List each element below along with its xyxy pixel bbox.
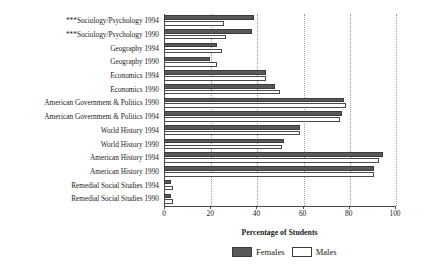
x-tick-label: 20 [206,209,213,218]
bar-row [164,55,395,69]
bar-row [164,192,395,206]
bar-row [164,14,395,28]
x-axis-title: Percentage of Students [164,228,395,237]
bar-rows [164,14,395,206]
bar-males [164,131,300,136]
category-label: World History 1990 [0,137,162,151]
category-label: Geography 1990 [0,55,162,69]
bar-row [164,28,395,42]
category-label: Economics 1990 [0,83,162,97]
bar-row [164,165,395,179]
bar-females [164,15,254,20]
bar-males [164,186,173,191]
legend-swatch-females-icon [232,247,252,257]
bar-males [164,49,222,54]
bar-chart: ***Sociology/Psychology 1994***Sociology… [0,0,426,266]
chart-title-clipped [0,0,426,2]
bar-females [164,166,374,171]
bar-females [164,152,383,157]
bar-row [164,69,395,83]
bar-females [164,194,171,199]
legend-item-females: Females [232,247,285,257]
bar-row [164,110,395,124]
bar-females [164,180,171,185]
bar-females [164,57,210,62]
x-tick-label: 100 [389,209,400,218]
bar-males [164,145,282,150]
bar-males [164,117,340,122]
bar-females [164,98,344,103]
bar-males [164,103,346,108]
bar-females [164,70,266,75]
category-axis-labels: ***Sociology/Psychology 1994***Sociology… [0,14,162,206]
bar-row [164,96,395,110]
bar-females [164,84,275,89]
category-label: Economics 1994 [0,69,162,83]
bar-females [164,139,284,144]
bar-row [164,178,395,192]
bar-row [164,41,395,55]
bar-row [164,151,395,165]
bar-males [164,76,266,81]
category-label: American History 1990 [0,165,162,179]
bar-males [164,35,226,40]
bar-row [164,124,395,138]
gridline-100 [396,14,397,206]
bar-females [164,125,300,130]
category-label: ***Sociology/Psychology 1990 [0,28,162,42]
x-tick-label: 60 [299,209,306,218]
x-tick-label: 0 [162,209,166,218]
category-label: World History 1994 [0,124,162,138]
category-label: Remedial Social Studies 1990 [0,192,162,206]
legend-swatch-males-icon [292,247,312,257]
x-axis-tick-labels: 020406080100 [0,209,426,221]
category-label: American History 1994 [0,151,162,165]
bar-males [164,21,224,26]
category-label: American Government & Politics 1994 [0,110,162,124]
category-label: ***Sociology/Psychology 1994 [0,14,162,28]
legend-label-females: Females [256,247,285,257]
x-tick-label: 80 [345,209,352,218]
bar-males [164,172,374,177]
x-tick-label: 40 [253,209,260,218]
bar-males [164,90,280,95]
bar-males [164,158,379,163]
bar-row [164,83,395,97]
bar-females [164,29,252,34]
category-label: Geography 1994 [0,41,162,55]
bar-males [164,62,217,67]
bar-females [164,111,342,116]
legend-label-males: Males [316,247,337,257]
category-label: American Government & Politics 1990 [0,96,162,110]
bar-females [164,43,217,48]
bar-row [164,137,395,151]
legend-item-males: Males [292,247,337,257]
bar-males [164,199,173,204]
chart-legend: Females Males [232,247,337,257]
category-label: Remedial Social Studies 1994 [0,178,162,192]
